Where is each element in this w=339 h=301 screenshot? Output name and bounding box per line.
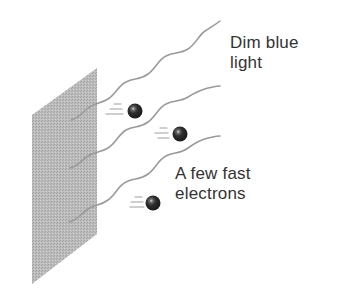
speed-lines-icon <box>106 104 123 114</box>
photoelectric-diagram: Dim blue light A few fast electrons <box>0 0 339 301</box>
electron-2 <box>155 127 188 142</box>
electrons-label: A few fast electrons <box>175 164 251 204</box>
speed-lines-icon <box>130 197 144 207</box>
light-wave-1 <box>71 21 220 120</box>
light-label: Dim blue light <box>230 33 299 73</box>
electron-icon <box>128 104 143 119</box>
electrons-label-line1: A few fast <box>175 164 251 184</box>
electrons-label-line2: electrons <box>175 184 251 204</box>
metal-plate <box>32 68 97 284</box>
light-label-line2: light <box>230 53 299 73</box>
electron-icon <box>146 196 161 211</box>
light-label-line1: Dim blue <box>230 33 299 53</box>
electron-icon <box>173 127 188 142</box>
electron-1 <box>106 104 143 119</box>
electron-3 <box>130 196 161 211</box>
speed-lines-icon <box>155 128 169 138</box>
